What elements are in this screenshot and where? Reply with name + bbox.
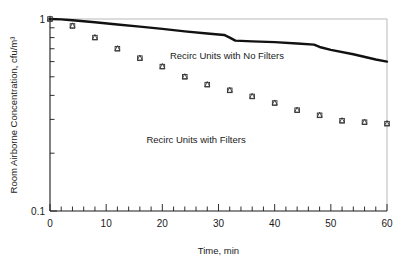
series-markers-with-filters	[48, 16, 390, 126]
data-point-marker	[227, 87, 232, 92]
annotation-with-filters: Recirc Units with Filters	[146, 134, 245, 145]
x-tick-label: 0	[47, 218, 53, 229]
data-point-marker	[115, 46, 120, 51]
x-tick-label-group: 0102030405060	[47, 218, 393, 229]
x-tick-label: 50	[325, 218, 337, 229]
y-tick-label-group: 0.11	[31, 14, 45, 217]
y-tick-label: 0.1	[31, 206, 45, 217]
annotation-no-filters: Recirc Units with No Filters	[170, 50, 284, 61]
x-axis-label: Time, min	[198, 245, 239, 256]
x-tick-label: 60	[381, 218, 393, 229]
data-point-marker	[205, 82, 210, 87]
data-point-marker	[272, 100, 277, 105]
data-point-marker	[362, 119, 367, 124]
data-point-marker	[137, 55, 142, 60]
data-point-marker	[250, 93, 255, 98]
data-point-marker	[92, 35, 97, 40]
chart-figure: 0102030405060 0.11 Recirc Units with No …	[0, 0, 418, 266]
y-tick-group	[50, 19, 57, 211]
data-point-marker	[182, 74, 187, 79]
data-point-marker	[160, 64, 165, 69]
x-tick-label: 30	[213, 218, 225, 229]
data-point-marker	[295, 107, 300, 112]
x-tick-group	[50, 204, 387, 211]
x-tick-label: 20	[157, 218, 169, 229]
data-point-marker	[317, 112, 322, 117]
x-tick-label: 10	[101, 218, 113, 229]
data-point-marker	[70, 23, 75, 28]
y-tick-label: 1	[39, 14, 45, 25]
data-point-marker	[340, 118, 345, 123]
x-tick-label: 40	[269, 218, 281, 229]
y-axis-label: Room Airborne Concentration, cfu/m³	[8, 37, 19, 194]
